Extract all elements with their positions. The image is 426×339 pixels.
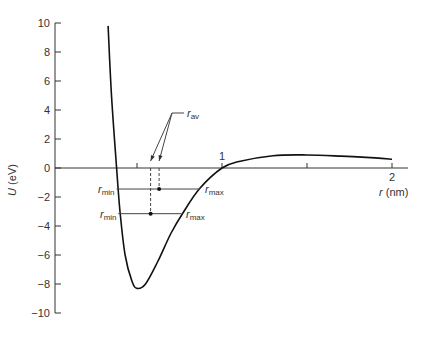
arrowhead-icon (159, 155, 163, 161)
rmax-label-upper: rmax (205, 183, 224, 197)
x-tick-label: 1 (219, 150, 225, 162)
y-tick-label: 0 (44, 162, 50, 174)
average-position-dot (157, 187, 161, 191)
y-tick-label: 6 (44, 75, 50, 87)
x-tick-label: 2 (389, 171, 395, 183)
rmin-label-lower: rmin (100, 208, 117, 222)
y-tick-label: 8 (44, 46, 50, 58)
rmax-label-lower: rmax (186, 208, 205, 222)
y-tick-label: 10 (38, 17, 50, 29)
y-axis-label: U (eV) (6, 164, 18, 196)
rmin-label-upper: rmin (98, 183, 115, 197)
y-tick-label: −4 (37, 220, 50, 232)
y-tick-label: −8 (37, 278, 50, 290)
y-tick-label: −10 (31, 307, 50, 319)
y-tick-label: 4 (44, 104, 50, 116)
y-tick-label: −2 (37, 191, 50, 203)
y-tick-label: 2 (44, 133, 50, 145)
arrowhead-icon (151, 155, 155, 161)
annotations (117, 113, 200, 216)
y-tick-label: −6 (37, 249, 50, 261)
x-axis-label: r (nm) (379, 186, 408, 198)
potential-curve (108, 26, 392, 289)
x-axis: 12 (55, 150, 408, 183)
rav-label: rav (187, 107, 199, 121)
average-position-dot (149, 212, 153, 216)
potential-energy-chart: 1086420−2−4−6−8−10 12 U (eV) r (nm) rmin… (0, 0, 426, 339)
